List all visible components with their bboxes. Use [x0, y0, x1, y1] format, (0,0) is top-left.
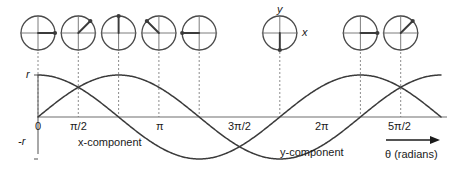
phasor-vector-head-5 [278, 48, 282, 52]
y-axis-top-label: r [26, 68, 30, 80]
phasor-0 [20, 15, 57, 51]
phasor-vector-7 [401, 21, 413, 33]
phasor-5 [262, 15, 298, 52]
x-tick-label-pi-over-2: π/2 [70, 120, 87, 132]
phasor-7 [383, 15, 419, 51]
phasor-y-axis-label: y [277, 3, 283, 15]
phasor-vector-head-1 [88, 19, 92, 23]
x-tick-label-5pi-over-2: 5π/2 [388, 120, 411, 132]
phasor-6 [342, 15, 379, 51]
phasor-vector-head-2 [117, 14, 121, 18]
phasor-vector-head-6 [375, 31, 379, 35]
phasor-3 [141, 15, 177, 51]
y-component-annotation: y-component [280, 146, 344, 158]
phasor-vector-3 [147, 21, 159, 33]
theta-arrow-head [430, 136, 440, 144]
phasor-4 [180, 15, 217, 51]
phasor-x-axis-label: x [302, 26, 308, 38]
phasor-row [20, 14, 419, 52]
phasor-vector-head-0 [53, 31, 57, 35]
phasor-components-figure: r -r 0 π/2 π 3π/2 2π 5π/2 x-component y-… [0, 0, 463, 172]
x-tick-label-2pi: 2π [315, 120, 329, 132]
x-tick-label-3pi-over-2: 3π/2 [228, 120, 251, 132]
phasor-vector-head-4 [180, 31, 184, 35]
phasor-vector-head-7 [411, 19, 415, 23]
y-axis-bottom-label: -r [18, 135, 25, 147]
x-tick-label-pi: π [156, 120, 164, 132]
phasor-vector-1 [78, 21, 90, 33]
x-tick-label-0: 0 [35, 120, 41, 132]
phasor-1 [60, 15, 96, 51]
phasor-vector-head-3 [145, 19, 149, 23]
theta-axis-label: θ (radians) [385, 148, 438, 160]
phasor-2 [101, 14, 137, 51]
x-component-annotation: x-component [78, 136, 142, 148]
figure-canvas [0, 0, 463, 172]
